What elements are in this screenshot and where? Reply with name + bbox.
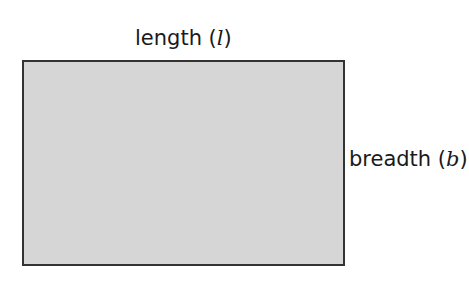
breadth-word: breadth (349, 147, 431, 171)
length-label: length (l) (135, 28, 232, 49)
length-symbol: l (217, 26, 224, 50)
length-word: length (135, 26, 202, 50)
length-close-paren: ) (224, 26, 232, 50)
rectangle-shape (22, 60, 345, 266)
breadth-label: breadth (b) (349, 149, 468, 170)
breadth-symbol: b (446, 147, 459, 171)
breadth-open-paren: ( (431, 147, 446, 171)
length-open-paren: ( (202, 26, 217, 50)
breadth-close-paren: ) (460, 147, 468, 171)
